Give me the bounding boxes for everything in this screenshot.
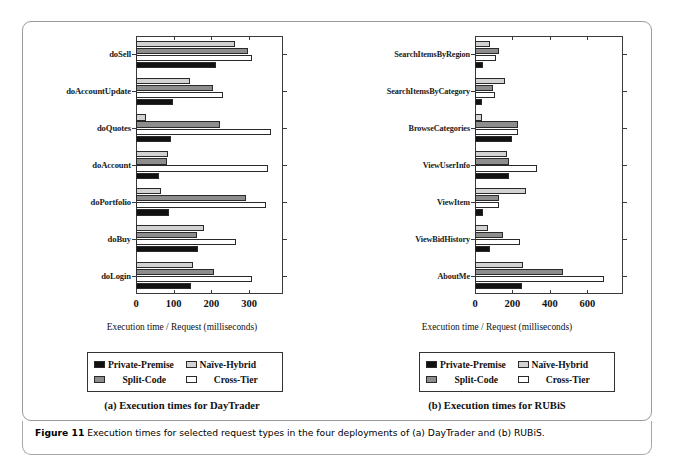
x-tick-label: 200 xyxy=(505,298,521,309)
y-axis-tick xyxy=(132,202,137,203)
x-axis-tick xyxy=(475,290,476,294)
bar xyxy=(136,276,252,282)
legend-daytrader: Private-Premise Naïve-Hybrid Split-Code … xyxy=(87,352,283,392)
x-axis-tick xyxy=(174,290,175,294)
x-axis-tick xyxy=(249,290,250,294)
y-axis-tick xyxy=(471,202,476,203)
legend-label-split-code: Split-Code xyxy=(440,374,517,385)
bar xyxy=(475,99,482,105)
figure-caption-text: Execution times for selected request typ… xyxy=(87,427,544,438)
bar xyxy=(475,269,563,275)
legend-label-cross-tier: Cross-Tier xyxy=(532,374,609,385)
y-axis-tick xyxy=(132,276,137,277)
bar xyxy=(136,78,190,84)
category-label: doAccountUpdate xyxy=(66,86,131,96)
bar xyxy=(475,232,503,238)
category-label: SearchItemsByCategory xyxy=(387,87,470,96)
y-axis-tick xyxy=(622,128,627,129)
category-label: ViewUserInfo xyxy=(423,161,470,170)
bar xyxy=(475,129,518,135)
bar xyxy=(475,151,507,157)
bar xyxy=(136,188,161,194)
y-axis-tick xyxy=(622,91,627,92)
y-axis-tick xyxy=(622,54,627,55)
y-axis-tick xyxy=(471,91,476,92)
y-axis-tick xyxy=(622,239,627,240)
y-axis-tick xyxy=(471,165,476,166)
legend-label-cross-tier: Cross-Tier xyxy=(200,374,277,385)
bar xyxy=(136,136,171,142)
bar xyxy=(475,195,499,201)
x-tick-label: 0 xyxy=(472,298,477,309)
subcaption-daytrader: (a) Execution times for DayTrader xyxy=(23,400,341,411)
bar xyxy=(475,165,537,171)
figure-frame: doSelldoAccountUpdatedoQuotesdoAccountdo… xyxy=(22,21,652,421)
bar xyxy=(475,188,526,194)
y-axis-tick xyxy=(282,54,287,55)
y-axis-tick xyxy=(282,202,287,203)
y-axis-tick xyxy=(622,202,627,203)
category-label: doAccount xyxy=(92,160,131,170)
chart-panel-daytrader: doSelldoAccountUpdatedoQuotesdoAccountdo… xyxy=(23,22,341,422)
y-axis-tick xyxy=(132,165,137,166)
bar xyxy=(136,225,204,231)
bar xyxy=(136,62,216,68)
legend-swatch-private-premise xyxy=(426,361,437,368)
x-axis-tick xyxy=(512,36,513,40)
bar xyxy=(475,173,509,179)
bar xyxy=(136,173,159,179)
bar xyxy=(475,48,499,54)
bar xyxy=(136,239,236,245)
bar xyxy=(475,78,505,84)
x-axis-tick xyxy=(174,36,175,40)
bar xyxy=(136,121,220,127)
bar xyxy=(475,262,523,268)
bar xyxy=(475,202,499,208)
bar xyxy=(475,121,518,127)
bar xyxy=(475,283,522,289)
plot-area-daytrader: doSelldoAccountUpdatedoQuotesdoAccountdo… xyxy=(136,36,283,294)
y-axis-tick xyxy=(622,276,627,277)
y-axis-tick xyxy=(132,54,137,55)
plot-area-rubis: SearchItemsByRegionSearchItemsByCategory… xyxy=(475,36,623,294)
y-axis-tick xyxy=(471,54,476,55)
legend-label-naive-hybrid: Naïve-Hybrid xyxy=(532,359,609,370)
legend-swatch-private-premise xyxy=(94,361,105,368)
bar xyxy=(475,41,490,47)
legend-swatch-cross-tier xyxy=(518,376,529,383)
x-axis-tick xyxy=(249,36,250,40)
bar xyxy=(136,232,197,238)
y-axis-tick xyxy=(622,165,627,166)
legend-label-naive-hybrid: Naïve-Hybrid xyxy=(200,359,277,370)
legend-swatch-split-code xyxy=(94,376,105,383)
bar xyxy=(475,114,482,120)
category-label: ViewBidHistory xyxy=(415,234,470,243)
bar xyxy=(136,41,235,47)
x-axis-tick xyxy=(550,36,551,40)
bar xyxy=(475,158,509,164)
chart-panel-rubis: SearchItemsByRegionSearchItemsByCategory… xyxy=(341,22,653,422)
y-axis-tick xyxy=(471,239,476,240)
bar xyxy=(136,269,214,275)
bar xyxy=(475,92,495,98)
bar xyxy=(475,246,490,252)
y-axis-tick xyxy=(282,165,287,166)
bar xyxy=(136,262,193,268)
bar xyxy=(475,276,604,282)
x-tick-label: 400 xyxy=(542,298,558,309)
bar xyxy=(136,202,266,208)
bar xyxy=(136,195,246,201)
y-axis-tick xyxy=(132,239,137,240)
x-axis-tick xyxy=(550,290,551,294)
category-label: doLogin xyxy=(101,271,131,281)
x-axis-tick xyxy=(136,290,137,294)
bar xyxy=(136,129,271,135)
bar xyxy=(136,283,191,289)
category-label: SearchItemsByRegion xyxy=(394,50,470,59)
x-axis-tick xyxy=(475,36,476,40)
category-label: AboutMe xyxy=(437,271,470,280)
legend-label-private-premise: Private-Premise xyxy=(440,359,517,370)
bar xyxy=(136,55,252,61)
bar xyxy=(136,165,268,171)
category-label: ViewItem xyxy=(437,197,470,206)
